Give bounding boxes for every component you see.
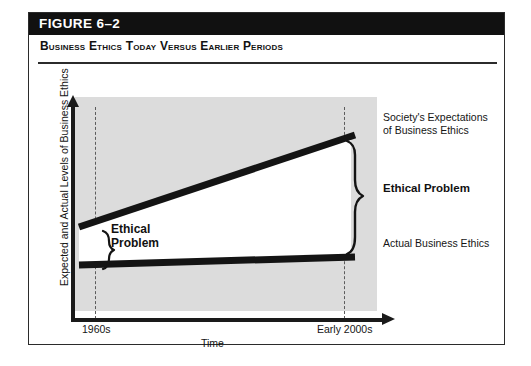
y-axis xyxy=(71,105,75,321)
figure-subtitle: Business Ethics Today Versus Earlier Per… xyxy=(40,39,283,53)
figure-label: FIGURE 6–2 xyxy=(39,16,120,31)
subtitle-divider xyxy=(38,62,497,64)
figure-header-bar: FIGURE 6–2 xyxy=(29,13,504,35)
annotation-actual-business-ethics: Actual Business Ethics xyxy=(383,237,489,249)
annotation-society-expectations-line2: of Business Ethics xyxy=(383,124,488,137)
annotation-society-expectations-line1: Society's Expectations xyxy=(383,111,488,124)
x-axis-arrow-icon xyxy=(382,313,395,325)
annotation-ethical-problem-left-line2: Problem xyxy=(111,236,159,250)
x-tick-early-2000s: Early 2000s xyxy=(317,323,372,335)
x-axis-title: Time xyxy=(201,337,224,349)
annotation-society-expectations: Society's Expectations of Business Ethic… xyxy=(383,111,488,137)
annotation-ethical-problem-left: Ethical Problem xyxy=(111,222,159,250)
y-axis-title: Expected and Actual Levels of Business E… xyxy=(58,96,70,286)
x-axis xyxy=(71,318,384,322)
annotation-ethical-problem-left-line1: Ethical xyxy=(111,222,159,236)
annotation-ethical-problem-right: Ethical Problem xyxy=(383,182,470,194)
x-tick-1960s: 1960s xyxy=(82,323,111,335)
figure-container: FIGURE 6–2 Business Ethics Today Versus … xyxy=(28,12,505,345)
chart-area: Expected and Actual Levels of Business E… xyxy=(29,65,506,346)
trend-lines-graphic xyxy=(29,65,506,346)
